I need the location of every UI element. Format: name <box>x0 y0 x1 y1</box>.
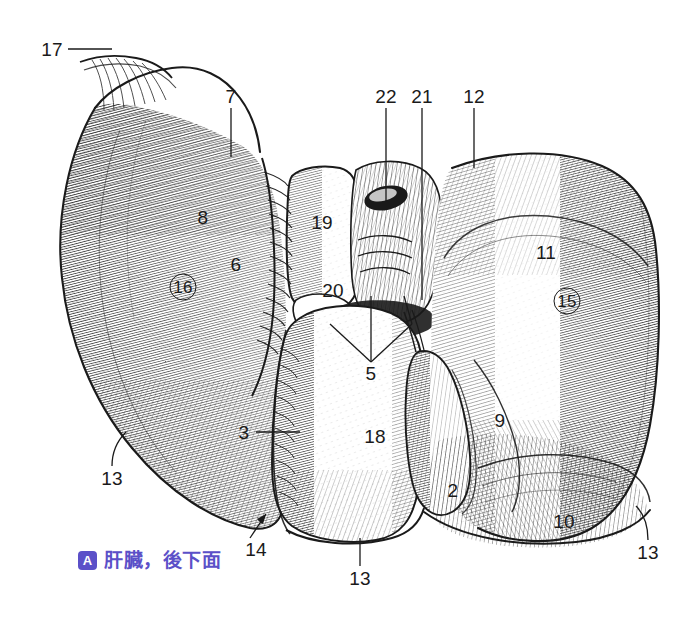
figure-caption: A 肝臓，後下面 <box>78 551 221 570</box>
caption-badge-a: A <box>78 551 97 570</box>
label-13-left: 13 <box>101 469 123 488</box>
label-8: 8 <box>198 208 209 227</box>
label-16: 16 <box>170 274 197 301</box>
caption-label: 肝臓，後下面 <box>104 551 221 570</box>
label-6: 6 <box>231 255 242 274</box>
label-5: 5 <box>366 364 377 383</box>
label-12: 12 <box>463 87 485 106</box>
fibrous-appendix <box>80 56 176 110</box>
label-15: 15 <box>554 288 581 315</box>
label-10: 10 <box>553 512 575 531</box>
label-19: 19 <box>311 213 333 232</box>
label-13-right: 13 <box>637 543 659 562</box>
label-14: 14 <box>245 540 267 559</box>
liver-illustration <box>0 0 700 618</box>
label-22: 22 <box>375 87 397 106</box>
label-2: 2 <box>448 481 459 500</box>
label-13-bottom: 13 <box>349 569 371 588</box>
label-3: 3 <box>239 423 250 442</box>
label-20: 20 <box>322 281 344 300</box>
label-7: 7 <box>226 87 237 106</box>
label-21: 21 <box>411 87 433 106</box>
label-11: 11 <box>536 243 556 262</box>
label-9: 9 <box>495 411 506 430</box>
label-17: 17 <box>41 40 63 59</box>
label-18: 18 <box>364 427 386 446</box>
figure-page: 17 7 22 21 12 8 19 11 6 16 20 15 5 9 3 1… <box>0 0 700 618</box>
